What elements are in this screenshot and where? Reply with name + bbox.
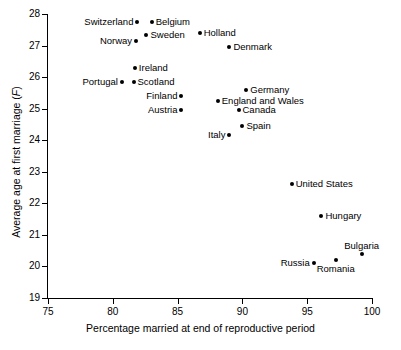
y-tick-label: 19: [29, 293, 40, 303]
y-tick-mark: [42, 14, 48, 15]
data-point[interactable]: [134, 39, 138, 43]
data-point-label: Bulgaria: [344, 240, 379, 250]
x-tick-label: 75: [42, 307, 53, 317]
data-point-label: Holland: [204, 28, 236, 38]
data-point[interactable]: [132, 80, 136, 84]
y-tick-mark: [42, 77, 48, 78]
data-point-label: Scotland: [138, 77, 175, 87]
x-tick-mark: [113, 298, 114, 304]
y-tick-label: 20: [29, 261, 40, 271]
data-point[interactable]: [135, 20, 139, 24]
data-point-label: Denmark: [233, 42, 272, 52]
y-tick-label: 23: [29, 167, 40, 177]
data-point[interactable]: [244, 88, 248, 92]
x-tick-mark: [242, 298, 243, 304]
y-axis-title-suffix: ): [10, 86, 22, 90]
y-tick-label: 21: [29, 230, 40, 240]
y-tick-mark: [42, 266, 48, 267]
data-point[interactable]: [179, 108, 183, 112]
data-point-label: Ireland: [139, 63, 168, 73]
y-tick-label: 22: [29, 198, 40, 208]
x-tick-label: 100: [364, 307, 381, 317]
data-point-label: Switzerland: [84, 17, 133, 27]
y-axis-title-italic: F: [10, 90, 22, 96]
x-tick-label: 80: [107, 307, 118, 317]
data-point[interactable]: [120, 80, 124, 84]
y-tick-mark: [42, 46, 48, 47]
data-point-label: Canada: [243, 105, 276, 115]
x-tick-label: 90: [237, 307, 248, 317]
x-tick-label: 95: [302, 307, 313, 317]
x-tick-mark: [178, 298, 179, 304]
data-point[interactable]: [179, 94, 183, 98]
y-tick-label: 26: [29, 72, 40, 82]
plot-area: 19202122232425262728 7580859095100 Switz…: [48, 14, 372, 298]
data-point[interactable]: [240, 124, 244, 128]
data-point[interactable]: [227, 133, 231, 137]
y-tick-mark: [42, 203, 48, 204]
y-tick-mark: [42, 172, 48, 173]
data-point[interactable]: [216, 99, 220, 103]
data-point-label: Belgium: [156, 17, 190, 27]
data-point[interactable]: [334, 258, 338, 262]
data-point[interactable]: [133, 66, 137, 70]
y-tick-mark: [42, 140, 48, 141]
data-point-label: Austria: [148, 105, 178, 115]
data-point[interactable]: [198, 31, 202, 35]
data-point[interactable]: [290, 182, 294, 186]
data-point[interactable]: [312, 261, 316, 265]
y-tick-label: 25: [29, 104, 40, 114]
x-tick-mark: [372, 298, 373, 304]
data-point[interactable]: [144, 33, 148, 37]
data-point-label: Finland: [146, 91, 177, 101]
data-point[interactable]: [237, 108, 241, 112]
scatter-chart-figure: 19202122232425262728 7580859095100 Switz…: [0, 0, 401, 350]
y-tick-mark: [42, 109, 48, 110]
data-point-label: Germany: [250, 85, 289, 95]
data-point-label: United States: [296, 180, 353, 190]
data-point-label: Russia: [281, 259, 310, 269]
data-point-label: Portugal: [82, 77, 117, 87]
data-point-label: Sweden: [150, 30, 184, 40]
data-point[interactable]: [360, 252, 364, 256]
y-axis-title: Average age at first marriage (F): [10, 12, 22, 312]
x-tick-mark: [307, 298, 308, 304]
x-axis-line: [47, 298, 373, 299]
data-point-label: Norway: [100, 36, 132, 46]
y-tick-label: 24: [29, 135, 40, 145]
data-point-label: Italy: [208, 131, 225, 141]
data-point-label: Spain: [246, 121, 270, 131]
data-point[interactable]: [319, 214, 323, 218]
y-tick-label: 27: [29, 41, 40, 51]
x-axis-title: Percentage married at end of reproductiv…: [0, 322, 401, 334]
x-tick-mark: [48, 298, 49, 304]
data-point-label: Hungary: [325, 211, 361, 221]
data-point[interactable]: [150, 20, 154, 24]
data-point[interactable]: [227, 45, 231, 49]
y-axis-title-prefix: Average age at first marriage (: [10, 96, 22, 238]
y-tick-mark: [42, 235, 48, 236]
data-point-label: Romania: [317, 264, 355, 274]
x-tick-label: 85: [172, 307, 183, 317]
y-tick-label: 28: [29, 9, 40, 19]
